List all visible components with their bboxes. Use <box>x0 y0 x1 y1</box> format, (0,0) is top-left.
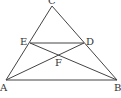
segment-EB <box>30 43 117 80</box>
label-F: F <box>55 57 62 68</box>
label-E: E <box>20 36 27 47</box>
triangle-diagram: C E D F A B <box>0 0 121 98</box>
label-A: A <box>0 82 8 93</box>
label-D: D <box>86 36 94 47</box>
label-B: B <box>114 82 121 93</box>
diagram-canvas: C E D F A B <box>0 0 121 98</box>
label-C: C <box>48 0 56 6</box>
